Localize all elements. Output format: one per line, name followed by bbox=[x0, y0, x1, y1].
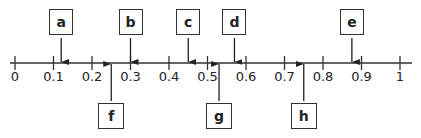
marker-box-b: b bbox=[119, 9, 143, 35]
marker-box-c: c bbox=[176, 9, 200, 35]
tick-label-1: 1 bbox=[396, 69, 404, 84]
tick-label-0.2: 0.2 bbox=[82, 69, 103, 84]
number-line-diagram: 0 0.1 0.2 0.3 0.4 0.5 0.6 0.7 0.8 0.9 1 … bbox=[0, 0, 421, 138]
marker-box-a: a bbox=[49, 9, 73, 35]
tick-label-0.5: 0.5 bbox=[197, 69, 218, 84]
tick-label-0: 0 bbox=[11, 69, 19, 84]
tick-label-0.6: 0.6 bbox=[236, 69, 257, 84]
tick-label-0.1: 0.1 bbox=[43, 69, 64, 84]
tick-label-0.9: 0.9 bbox=[351, 69, 372, 84]
tick-label-0.7: 0.7 bbox=[274, 69, 295, 84]
marker-box-d: d bbox=[222, 9, 246, 35]
marker-box-f: f bbox=[98, 103, 124, 129]
tick-label-0.4: 0.4 bbox=[159, 69, 180, 84]
tick-label-0.8: 0.8 bbox=[313, 69, 334, 84]
tick-label-0.3: 0.3 bbox=[120, 69, 141, 84]
marker-box-g: g bbox=[206, 103, 232, 129]
marker-box-h: h bbox=[291, 103, 317, 129]
marker-box-e: e bbox=[340, 9, 364, 35]
